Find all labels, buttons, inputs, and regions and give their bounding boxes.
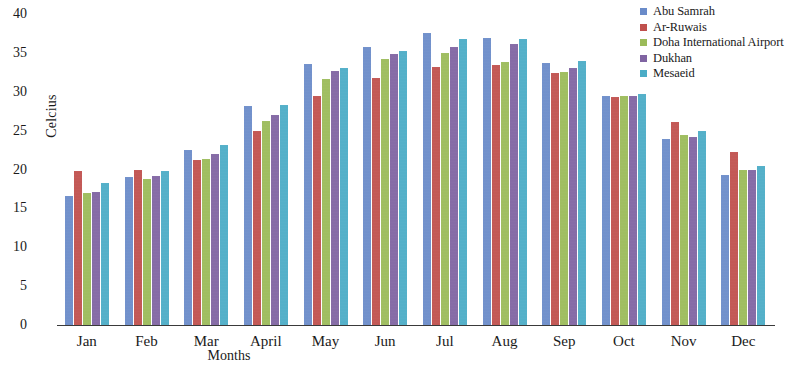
legend-swatch-icon [640,70,647,77]
bar-group [57,14,117,325]
bar [92,192,100,325]
legend-item: Dukhan [638,51,790,67]
bar [680,135,688,325]
bar-group [176,14,236,325]
bar [542,63,550,325]
bar [304,64,312,325]
bar [483,38,491,325]
legend-item: Abu Samrah [638,4,790,20]
y-axis-tick-label: 25 [0,124,27,138]
bar [161,171,169,325]
bar [501,62,509,325]
y-axis-tick-label: 0 [0,318,27,332]
bar [698,131,706,325]
bar [748,170,756,325]
bar [262,121,270,325]
bar [381,59,389,325]
bar [721,175,729,325]
legend-item-label: Mesaeid [653,66,695,82]
bar-group [117,14,177,325]
bar [220,145,228,325]
bar [629,96,637,325]
bar [671,122,679,325]
bar [578,61,586,325]
bar [551,73,559,325]
legend-item-label: Abu Samrah [653,4,715,20]
bar [331,71,339,325]
y-axis-tick-label: 15 [0,201,27,215]
y-axis-tick-label: 5 [0,279,27,293]
legend-swatch-icon [640,24,647,31]
x-axis-title-text: Months [208,348,251,364]
y-axis-tick-label: 40 [0,7,27,21]
bar-group [355,14,415,325]
bar [560,72,568,325]
bar [602,96,610,325]
bar [271,115,279,325]
bar [211,154,219,325]
bar-chart: Celcius 0510152025303540 JanFebMarAprilM… [0,0,790,368]
legend-item-label: Ar-Ruwais [653,20,707,36]
bar [74,171,82,325]
bar [638,94,646,325]
bar [253,131,261,325]
legend-item-label: Dukhan [653,51,692,67]
bar-group [475,14,535,325]
y-axis-tick-label: 30 [0,85,27,99]
x-axis-line [57,325,775,326]
bar [340,68,348,325]
bar [739,170,747,326]
bar [363,47,371,325]
bar [280,105,288,325]
bar [244,106,252,325]
x-axis-title: Months [0,348,790,364]
bar [322,79,330,325]
bar [620,96,628,325]
bar-group [296,14,356,325]
bar [492,65,500,325]
bar [125,177,133,325]
bar [459,39,467,325]
bar [569,68,577,325]
bar [65,196,73,325]
bar [134,170,142,325]
legend-item: Ar-Ruwais [638,20,790,36]
legend-swatch-icon [640,55,647,62]
legend-item: Doha International Airport [638,35,790,51]
y-axis-tick-label: 35 [0,46,27,60]
bar [730,152,738,325]
bar [689,137,697,325]
y-axis-tick-label: 10 [0,240,27,254]
bar [399,51,407,325]
legend-swatch-icon [640,39,647,46]
bar [101,183,109,325]
bar [432,67,440,325]
bar [519,39,527,325]
bar [152,176,160,325]
bar [510,44,518,325]
bar [83,193,91,325]
legend-swatch-icon [640,8,647,15]
bar-group [415,14,475,325]
legend-item-label: Doha International Airport [653,35,784,51]
bar [372,78,380,325]
bar [450,47,458,325]
bar [757,166,765,325]
bar [184,150,192,325]
bar [202,159,210,325]
chart-legend: Abu SamrahAr-RuwaisDoha International Ai… [638,4,790,82]
bar-group [534,14,594,325]
bar [143,179,151,325]
y-axis-tick-label: 20 [0,163,27,177]
legend-item: Mesaeid [638,66,790,82]
bar [611,97,619,325]
bar [193,160,201,325]
bar [662,139,670,325]
bar [441,53,449,325]
bar [423,33,431,325]
bar [313,96,321,325]
bar [390,54,398,325]
bar-group [236,14,296,325]
